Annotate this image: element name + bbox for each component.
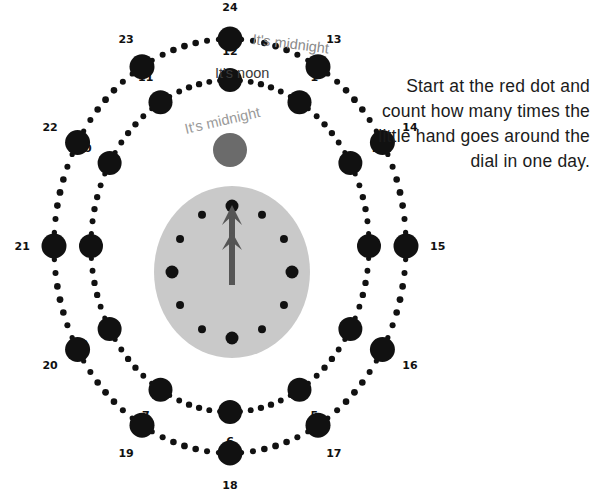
inner-node-5[interactable]: [288, 378, 312, 402]
inner-label-6: 6: [226, 435, 234, 448]
outer-bead: [393, 176, 400, 183]
inner-bead: [98, 304, 104, 310]
clock-hour-mark-3: [286, 266, 299, 279]
inner-bead: [206, 407, 212, 413]
inner-label-1: 1: [310, 71, 318, 84]
inner-bead: [360, 292, 366, 298]
outer-bead: [94, 106, 101, 113]
outer-bead: [399, 283, 406, 290]
start-red-dot[interactable]: [213, 133, 247, 167]
outer-bead: [393, 309, 400, 316]
inner-label-12: 12: [222, 45, 237, 58]
inner-bead: [98, 182, 104, 188]
inner-bead: [118, 347, 124, 353]
inner-bead: [365, 268, 371, 274]
outer-label-18: 18: [222, 479, 237, 492]
inner-bead: [94, 292, 100, 298]
inner-node-6[interactable]: [218, 400, 242, 424]
inner-label-10: 10: [76, 142, 92, 155]
inner-node-7[interactable]: [149, 378, 173, 402]
outer-bead: [390, 322, 396, 328]
inner-node-2[interactable]: [338, 151, 362, 175]
start-dot: [213, 133, 247, 167]
inner-bead: [186, 84, 192, 90]
outer-bead: [57, 296, 64, 303]
inner-bead: [329, 130, 335, 136]
clock-hour-mark-5: [258, 325, 266, 333]
clock-hour-mark-10: [176, 235, 184, 243]
outer-label-15: 15: [430, 240, 445, 253]
inner-node-11[interactable]: [149, 90, 173, 114]
inner-bead: [176, 398, 182, 404]
inner-bead: [94, 194, 100, 200]
clock-hour-mark-1: [258, 211, 266, 219]
clock-hour-mark-7: [198, 325, 206, 333]
inner-bead: [314, 113, 320, 119]
outer-bead: [343, 87, 350, 94]
clock-hour-mark-9: [166, 266, 179, 279]
outer-bead: [64, 164, 70, 170]
outer-label-23: 23: [118, 33, 133, 46]
inner-label-8: 8: [80, 338, 88, 351]
inner-bead: [90, 268, 96, 274]
inner-label-7: 7: [142, 409, 150, 422]
inner-label-9: 9: [58, 240, 66, 253]
inner-bead: [258, 81, 264, 87]
outer-bead: [87, 369, 93, 375]
inner-bead: [329, 356, 335, 362]
outer-bead: [181, 43, 188, 50]
outer-bead: [120, 407, 126, 413]
outer-bead: [160, 52, 166, 58]
outer-bead: [54, 202, 61, 209]
outer-label-20: 20: [42, 359, 58, 372]
callout-midnight-inner: It's midnight: [183, 104, 262, 137]
inner-label-4: 4: [372, 338, 380, 351]
clock-hour-mark-8: [176, 301, 184, 309]
outer-bead: [52, 270, 58, 276]
inner-node-9[interactable]: [79, 234, 103, 258]
inner-bead: [278, 398, 284, 404]
inner-bead: [132, 121, 138, 127]
outer-bead: [401, 216, 407, 222]
outer-bead: [170, 439, 177, 446]
outer-bead: [272, 443, 279, 450]
inner-bead: [140, 113, 146, 119]
worksheet-page: 241314151617181920212223 121234567891011…: [0, 0, 599, 494]
inner-bead: [125, 130, 131, 136]
outer-bead: [334, 407, 340, 413]
outer-bead: [192, 446, 199, 453]
outer-bead: [120, 79, 126, 85]
inner-bead: [206, 79, 212, 85]
inner-label-3: 3: [395, 240, 403, 253]
outer-label-22: 22: [42, 121, 57, 134]
outer-bead: [351, 96, 358, 103]
inner-node-10[interactable]: [98, 151, 122, 175]
inner-bead: [314, 373, 320, 379]
inner-node-3[interactable]: [357, 234, 381, 258]
inner-node-1[interactable]: [288, 90, 312, 114]
outer-bead: [170, 47, 177, 54]
inner-bead: [176, 89, 182, 95]
inner-node-4[interactable]: [338, 317, 362, 341]
outer-label-17: 17: [326, 447, 341, 460]
inner-bead: [118, 140, 124, 146]
outer-bead: [160, 434, 166, 440]
outer-label-16: 16: [402, 359, 418, 372]
clock-face: [154, 186, 310, 358]
outer-bead: [52, 216, 58, 222]
inner-bead: [91, 206, 97, 212]
outer-bead: [204, 448, 210, 454]
inner-bead: [268, 84, 274, 90]
outer-bead: [60, 309, 67, 316]
clock-hour-mark-6: [226, 332, 239, 345]
outer-bead: [334, 79, 340, 85]
inner-bead: [360, 194, 366, 200]
inner-bead: [336, 140, 342, 146]
outer-bead: [60, 176, 67, 183]
outer-bead: [401, 270, 407, 276]
outer-bead: [261, 446, 268, 453]
inner-bead: [365, 218, 371, 224]
inner-node-8[interactable]: [98, 317, 122, 341]
clock-hour-mark-11: [198, 211, 206, 219]
inner-bead: [248, 407, 254, 413]
